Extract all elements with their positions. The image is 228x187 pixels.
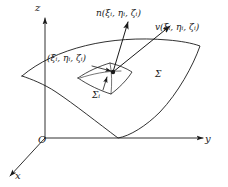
surface-integral-diagram: z y x O n(ξᵢ, ηᵢ, ζᵢ) v(ξᵢ, ηᵢ, ζᵢ) (ξᵢ,… [0, 0, 228, 187]
x-axis-label: x [15, 171, 21, 181]
patch-leader-line [103, 77, 107, 90]
origin-label: O [38, 135, 46, 145]
field-vector-arrow [113, 26, 170, 72]
normal-vector-label: n(ξᵢ, ηᵢ, ζᵢ) [96, 9, 141, 18]
surface-sigma-label: Σ [155, 70, 161, 79]
normal-vector-arrow [113, 22, 128, 72]
y-axis-label: y [205, 134, 211, 144]
patch-sigma-i-label: Σᵢ [92, 91, 100, 100]
point-coordinates-label: (ξᵢ, ηᵢ, ζᵢ) [47, 54, 86, 63]
patch-gridline-v [110, 63, 112, 94]
surface-point-marker [111, 70, 115, 74]
surface-patch-sigma-i [78, 63, 132, 94]
field-vector-label: v(ξᵢ, ηᵢ, ζᵢ) [155, 23, 199, 32]
z-axis-label: z [35, 3, 40, 13]
